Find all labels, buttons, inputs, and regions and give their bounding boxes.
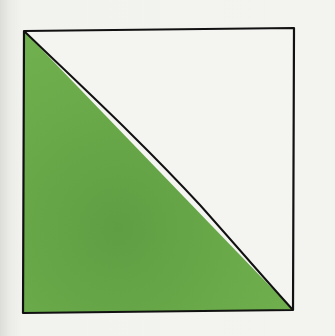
half-square-triangle-drawing xyxy=(0,0,335,336)
paper-background xyxy=(0,0,335,336)
